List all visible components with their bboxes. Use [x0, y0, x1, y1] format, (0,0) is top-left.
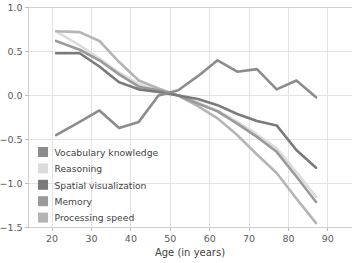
x-tick-label: 60	[204, 233, 216, 244]
legend-label: Spatial visualization	[55, 180, 147, 191]
legend-item-reasoning: Reasoning	[38, 163, 102, 174]
legend-item-vocabulary-knowledge: Vocabulary knowledge	[38, 147, 158, 158]
legend-label: Vocabulary knowledge	[55, 147, 159, 158]
x-axis-title: Age (in years)	[155, 247, 225, 258]
legend-swatch	[38, 213, 48, 223]
legend-swatch	[38, 163, 48, 173]
x-tick-label: 30	[85, 233, 97, 244]
legend-swatch	[38, 196, 48, 206]
y-tick-label: 1.0	[7, 2, 22, 13]
x-tick-label: 90	[322, 233, 334, 244]
x-tick-label: 70	[243, 233, 255, 244]
legend-item-memory: Memory	[38, 196, 92, 207]
x-tick-label: 40	[125, 233, 137, 244]
y-tick-label: −1.0	[0, 178, 23, 189]
plot-background	[0, 0, 353, 263]
chart-container: 1.00.50.0−0.5−1.0−1.5 2030405060708090 A…	[0, 0, 353, 263]
y-tick-label: 0.5	[7, 46, 22, 57]
y-tick-label: 0.0	[7, 90, 22, 101]
legend-label: Reasoning	[55, 163, 103, 174]
legend-swatch	[38, 147, 48, 157]
legend-label: Processing speed	[55, 212, 135, 223]
x-tick-label: 50	[164, 233, 176, 244]
legend-label: Memory	[55, 196, 93, 207]
y-tick-label: −1.5	[0, 222, 23, 233]
x-tick-label: 80	[282, 233, 294, 244]
y-tick-label: −0.5	[0, 134, 23, 145]
x-tick-label: 20	[46, 233, 58, 244]
legend-swatch	[38, 180, 48, 190]
legend-item-spatial-visualization: Spatial visualization	[38, 180, 147, 191]
line-chart: 1.00.50.0−0.5−1.0−1.5 2030405060708090 A…	[0, 0, 353, 263]
